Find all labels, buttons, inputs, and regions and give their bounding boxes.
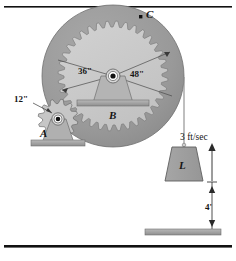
point-c-marker: [139, 15, 142, 18]
point-c-label: C: [146, 8, 154, 20]
cable-attach-point: [182, 143, 186, 147]
gear-a-label: A: [39, 127, 47, 139]
gear-b-label: B: [108, 109, 116, 121]
ground-plate: [145, 229, 221, 235]
small-gear-radius-label: 12": [14, 94, 28, 104]
gear-b-hub: [106, 69, 120, 83]
height-label: 4': [205, 202, 212, 212]
gear-a-hub: [52, 113, 64, 125]
outer-radius-label: 48": [130, 69, 144, 79]
velocity-label: 3 ft/sec: [180, 132, 208, 142]
figure-bottom-border: [4, 245, 232, 248]
inner-radius-label: 36": [78, 66, 92, 76]
velocity-arrow: [208, 143, 215, 181]
load-label: L: [178, 159, 186, 171]
gear-train-figure: C B A L 36" 48" 12" 3 ft/sec 4': [0, 0, 236, 261]
